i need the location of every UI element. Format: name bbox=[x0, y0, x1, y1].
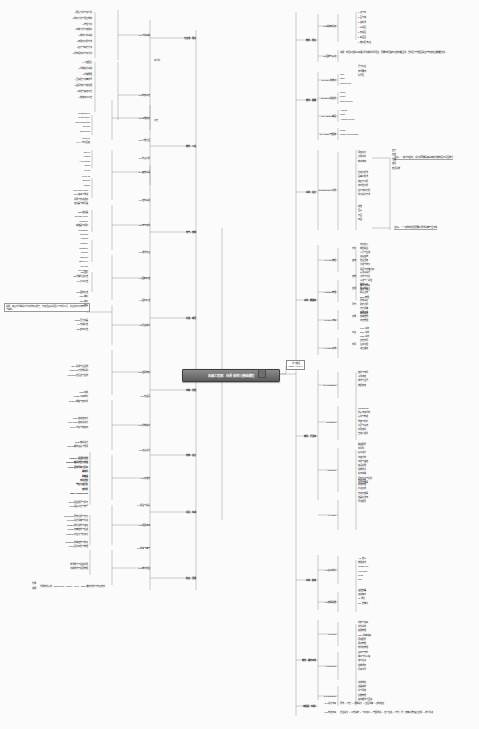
right-sub-4-1[interactable]: 5.2 Richer bbox=[327, 421, 336, 424]
right-leaf-3-0-1-0[interactable]: 连接查询 bbox=[360, 255, 368, 258]
right-leaf-4-2-2[interactable]: 接口设计 bbox=[358, 451, 366, 454]
left-leaf-0-1-5[interactable]: 6 铸造与锻造工艺 bbox=[77, 90, 92, 93]
right-leaf-0-0-3[interactable]: 4 三视图 bbox=[358, 26, 366, 29]
right-branch-6-label[interactable]: 软件、操作系统 bbox=[302, 659, 316, 662]
left-leaf-1-0-1[interactable]: Siemens NX bbox=[79, 116, 90, 119]
left-leaf-5-3-0[interactable]: Sheet 钣金展开与折弯 bbox=[68, 501, 88, 504]
left-sub-1-1[interactable]: 2.2 二维绘图 bbox=[139, 139, 150, 142]
right-sub-7-1[interactable]: 8.2 制造流程 bbox=[325, 711, 336, 714]
left-leaf-3-0-1[interactable]: JB 机械行业标准 bbox=[73, 275, 88, 278]
right-leaf-4-0-0[interactable]: 控件与布局 bbox=[358, 371, 368, 374]
right-leaf-6-0-2[interactable]: 权限管理 bbox=[358, 629, 366, 632]
left-leaf-3-0-2[interactable]: HG 化工标准 bbox=[77, 279, 88, 282]
right-leaf-0-0-2[interactable]: 3 投影法 bbox=[358, 21, 366, 24]
left-leaf-2-0-3[interactable]: 传感器与执行器 bbox=[74, 202, 88, 205]
left-leaf-0-0-7[interactable]: 8 机构运动学与动力学 bbox=[73, 51, 92, 54]
right-leaf-5-1-3[interactable]: Lite 轻量化 bbox=[358, 601, 368, 604]
right-leaf-5-0-3[interactable]: Typescript bbox=[358, 569, 367, 572]
right-leaf-3-1-0-0[interactable]: 表关系设计 bbox=[360, 271, 370, 274]
right-leaf-0-1-2[interactable]: 标题栏 bbox=[358, 74, 364, 77]
right-leaf-1-0-1[interactable]: Table bbox=[340, 77, 345, 80]
right-leaf-6-1-2[interactable]: 定时任务 bbox=[358, 659, 366, 662]
right-leaf-0-0-5[interactable]: 6 断面图 bbox=[358, 36, 366, 39]
left-leaf-6-0-2[interactable]: TestDO 样机试制与验证 bbox=[67, 523, 88, 526]
left-leaf-5-2-3[interactable]: 减速机 bbox=[82, 470, 88, 473]
left-sub-4-1[interactable]: 5.2 非金属 bbox=[141, 395, 150, 398]
right-leaf-4-2-5[interactable]: 错误处理 bbox=[358, 464, 366, 467]
right-leaf-3-2-1-1[interactable]: 版本控制 bbox=[360, 315, 368, 318]
left-leaf-3-2-2[interactable]: EN 欧洲标准 bbox=[77, 327, 88, 330]
right-leaf-3-0-0-1[interactable]: 数据类型 bbox=[360, 247, 368, 250]
right-leaf-2-0a-2[interactable]: 载荷施加 bbox=[358, 159, 366, 162]
right-leaf-3-0-1-1[interactable]: 聚合函数 bbox=[360, 259, 368, 262]
left-leaf-2-0-0[interactable]: Low Code Logic bbox=[73, 189, 88, 192]
right-sub-3-2[interactable]: 4.3 Pipe 流程 bbox=[324, 319, 336, 322]
left-leaf-1-0-4[interactable]: SolidWorks bbox=[80, 129, 90, 132]
right-sub-1-1[interactable]: 2.2 Sheet 钣金件 bbox=[321, 97, 336, 100]
left-branch-7-label[interactable]: 职业、发展 bbox=[186, 577, 196, 580]
right-leaf-4-3-1[interactable]: 依赖管理 bbox=[358, 483, 366, 486]
left-leaf-3-1-2[interactable]: DIN 德标 bbox=[80, 299, 88, 302]
right-leaf-4-1-1[interactable]: 列表渲染机制 bbox=[358, 411, 370, 414]
left-sub-0-1[interactable]: 1.2 制造工艺 bbox=[139, 94, 150, 97]
right-leaf-5-0-4[interactable]: Read bbox=[358, 573, 363, 576]
left-leaf-4-1-1[interactable]: Plastic 工程塑料 bbox=[74, 395, 88, 398]
left-sub-1-0[interactable]: 2.1 三维建模 bbox=[139, 117, 150, 120]
left-leaf-2-0-1[interactable]: PLC 编程与调试 bbox=[74, 193, 88, 196]
right-leaf-6-2-1[interactable]: 容器编排 bbox=[358, 685, 366, 688]
right-leaf-1-2-0[interactable]: Angular bbox=[340, 109, 347, 112]
right-sub-6-1[interactable]: 7.2 Service bbox=[326, 665, 336, 668]
right-leaf-3-1-0-1[interactable]: 范式与冗余 bbox=[360, 275, 370, 278]
right-leaf-4-2-1[interactable]: 中间件 bbox=[358, 447, 364, 450]
left-sub-5-1[interactable]: 6.2 连接设计 bbox=[139, 449, 150, 452]
left-leaf-1-2-1[interactable]: Abaqus bbox=[83, 155, 90, 158]
right-sub-3-1[interactable]: 4.2 Data 管理 bbox=[324, 291, 336, 294]
right-leaf-4-3-3[interactable]: 自动化部署 bbox=[358, 491, 368, 494]
right-leaf-2-2-1[interactable]: 图表 bbox=[358, 209, 362, 212]
left-leaf-0-1-2[interactable]: 3 机械原理 bbox=[83, 72, 93, 75]
right-leaf-4-2-6[interactable]: 性能优化 bbox=[358, 468, 366, 471]
left-sub-1-2[interactable]: 2.3 仿真分析 bbox=[139, 157, 150, 160]
right-leaf-5-0-2[interactable]: JSON/XML bbox=[358, 565, 368, 568]
right-leaf-5-1-0[interactable]: 监控告警 bbox=[358, 589, 366, 592]
right-leaf-2-2-2[interactable]: 云图 bbox=[358, 213, 362, 216]
left-leaf-7-0-0[interactable]: 技术能力与经验积累 bbox=[70, 563, 88, 566]
right-leaf-2-0b-3[interactable]: 变形 bbox=[392, 162, 396, 165]
right-sub-1-2[interactable]: 2.3 Angular 曲面 bbox=[321, 115, 336, 118]
left-leaf-2-2-2[interactable]: Ethernet bbox=[80, 255, 88, 258]
left-leaf-5-2-2[interactable]: Linear 直线导轨与丝杠 bbox=[68, 465, 88, 468]
right-branch-7-label[interactable]: 流程图、实例1 bbox=[303, 705, 316, 708]
left-leaf-1-2-3[interactable]: Adams bbox=[84, 164, 90, 167]
right-leaf-2-0b-1[interactable]: 应变 bbox=[392, 153, 396, 156]
left-leaf-6-0-4[interactable]: Platform 平台化与模块化 bbox=[66, 532, 88, 535]
right-leaf-3-3-1-0[interactable]: 文档协同 bbox=[360, 339, 368, 342]
right-branch-5-label[interactable]: 系统、集成 bbox=[306, 579, 316, 582]
right-leaf-1-3-1[interactable]: Fusion Specification bbox=[340, 133, 358, 136]
left-leaf-2-0-2[interactable]: 伺服与步进驱动 bbox=[74, 197, 88, 200]
right-leaf-3-0-0-2[interactable]: 索引与主键 bbox=[360, 251, 370, 254]
right-leaf-3-2-1-0[interactable]: 变更记录 bbox=[360, 311, 368, 314]
right-leaf-4-1-2[interactable]: 表单与校验 bbox=[358, 415, 368, 418]
right-sub-3-0[interactable]: 4.1 Ajax 数据 bbox=[324, 259, 336, 262]
left-leaf-2-1-1[interactable]: Release Relay bbox=[75, 215, 88, 218]
right-leaf-2-1-5[interactable]: 优化设计方法 bbox=[358, 193, 370, 196]
right-leaf-6-2-2[interactable]: 卷与网络 bbox=[358, 689, 366, 692]
left-leaf-5-2-6[interactable]: 气缸与液压缸 bbox=[76, 483, 88, 486]
left-leaf-2-1-0[interactable]: ABB 变频器 bbox=[77, 211, 88, 214]
right-leaf-3-1-0-2[interactable]: 事务与一致性 bbox=[360, 279, 372, 282]
right-leaf-3-3-1-1[interactable]: 任务分配 bbox=[360, 343, 368, 346]
right-sub-0-1[interactable]: 1.2 图样与表达 bbox=[323, 55, 336, 58]
left-leaf-5-0-1[interactable]: Gear Train 齿轮系设计 bbox=[68, 421, 88, 424]
right-leaf-4-3-0[interactable]: 构建打包 bbox=[358, 479, 366, 482]
right-leaf-4-1-3[interactable]: 弹窗与提示 bbox=[358, 419, 368, 422]
left-leaf-4-0-0[interactable]: Steel 碳钢与合金钢 bbox=[71, 365, 88, 368]
right-leaf-2-0a-0[interactable]: 网格划分 bbox=[358, 151, 366, 154]
left-leaf-5-3-1[interactable]: Weld 焊接工艺与符号 bbox=[69, 505, 88, 508]
right-leaf-3-3-1-2[interactable]: 进度跟踪 bbox=[360, 347, 368, 350]
left-leaf-5-2-8[interactable]: Main Components bbox=[70, 492, 88, 495]
right-leaf-6-0-0[interactable]: 内核与进程 bbox=[358, 621, 368, 624]
left-leaf-3-1-0[interactable]: ISO 国际标准 bbox=[76, 291, 88, 294]
right-leaf-0-1-0[interactable]: 尺寸标注 bbox=[358, 65, 366, 68]
left-branch-1-label[interactable]: 软件、工具 bbox=[186, 145, 196, 148]
right-leaf-2-0b-4[interactable]: 安全系数 bbox=[392, 166, 400, 169]
